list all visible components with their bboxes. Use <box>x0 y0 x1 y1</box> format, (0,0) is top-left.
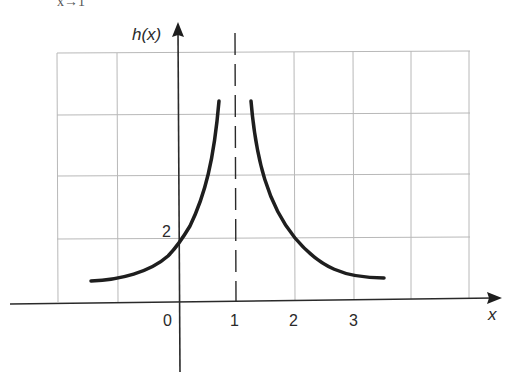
grid-line-y2 <box>57 237 470 239</box>
x-tick-3: 3 <box>349 312 358 329</box>
grid-line-xm1 <box>117 53 118 302</box>
asymptote-dashed-line <box>235 33 236 302</box>
y-tick-2: 2 <box>162 223 171 240</box>
grid-line-y6 <box>57 113 470 115</box>
x-tick-2: 2 <box>289 312 298 329</box>
x-axis <box>10 292 502 304</box>
graph-figure: x→1 <box>0 0 526 380</box>
curve-right-branch <box>251 101 384 278</box>
x-axis-arrow-icon <box>487 292 502 304</box>
x-tick-1: 1 <box>230 312 239 329</box>
grid-line-xm2 <box>57 53 58 302</box>
grid-line-x3 <box>353 51 354 300</box>
curve-left-branch <box>91 101 219 281</box>
y-axis-arrow-icon <box>172 22 184 37</box>
y-axis-label: h(x) <box>132 25 161 44</box>
x-axis-label: x <box>487 305 497 324</box>
x-tick-0: 0 <box>163 312 172 329</box>
y-axis <box>172 22 184 372</box>
grid-line-y8 <box>57 51 470 53</box>
grid-line-x2 <box>294 52 295 300</box>
clipped-caption: x→1 <box>57 0 85 9</box>
